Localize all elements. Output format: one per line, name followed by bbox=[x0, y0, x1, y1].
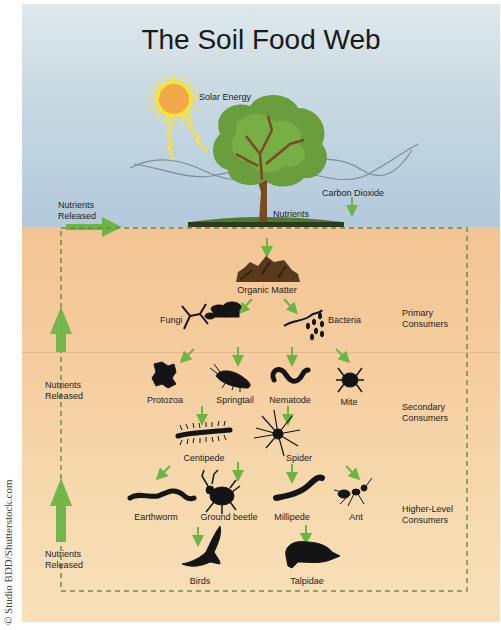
node-label-protozoa: Protozoa bbox=[147, 395, 183, 406]
level-label-secondary: Secondary Consumers bbox=[402, 402, 448, 424]
copyright-notice: © Studio BDD/Shutterstock.com bbox=[2, 479, 14, 625]
ground-beetle-icon bbox=[202, 470, 240, 514]
carbon-dioxide-label: Carbon Dioxide bbox=[322, 188, 384, 199]
birds-icon bbox=[182, 526, 221, 566]
node-label-talpidae: Talpidae bbox=[290, 576, 324, 587]
nutrients-up-arrow-lower bbox=[50, 478, 72, 542]
centipede-icon bbox=[178, 421, 230, 445]
node-label-fungi: Fungi bbox=[160, 315, 183, 326]
level-label-higher: Higher-Level Consumers bbox=[402, 504, 453, 526]
spider-icon bbox=[254, 410, 300, 456]
mite-icon bbox=[336, 368, 364, 392]
node-label-birds: Birds bbox=[190, 576, 211, 587]
sun-icon bbox=[148, 73, 206, 160]
node-label-nematode: Nematode bbox=[269, 395, 311, 406]
millipede-icon bbox=[276, 477, 322, 498]
organic-matter-icon bbox=[236, 256, 300, 282]
node-label-ground-beetle: Ground beetle bbox=[200, 512, 257, 523]
node-label-mite: Mite bbox=[340, 397, 357, 408]
level-label-primary: Primary Consumers bbox=[402, 308, 448, 330]
node-label-bacteria: Bacteria bbox=[328, 315, 361, 326]
springtail-icon bbox=[210, 364, 250, 392]
node-label-earthworm: Earthworm bbox=[134, 512, 178, 523]
talpidae-icon bbox=[286, 542, 340, 568]
node-label-ant: Ant bbox=[349, 512, 363, 523]
food-web-arrows bbox=[160, 238, 356, 541]
node-label-springtail: Springtail bbox=[216, 395, 254, 406]
solar-energy-label: Solar Energy bbox=[199, 92, 251, 103]
node-label-spider: Spider bbox=[286, 453, 312, 464]
ant-icon bbox=[334, 478, 372, 506]
nutrients-released-bottom-label: Nutrients Released bbox=[45, 549, 83, 571]
nutrients-released-top-label: Nutrients Released bbox=[58, 200, 96, 222]
diagram-frame: The Soil Food Web bbox=[22, 4, 500, 622]
nematode-icon bbox=[273, 370, 308, 382]
bacteria-icon bbox=[284, 310, 324, 340]
fungi-icon bbox=[182, 302, 241, 329]
nutrients-released-middle-label: Nutrients Released bbox=[45, 380, 83, 402]
protozoa-icon bbox=[152, 362, 176, 388]
node-label-organic-matter: Organic Matter bbox=[237, 285, 297, 296]
node-label-millipede: Millipede bbox=[274, 512, 310, 523]
nutrients-up-arrow-upper bbox=[50, 307, 72, 352]
node-label-centipede: Centipede bbox=[183, 453, 224, 464]
tree-icon bbox=[188, 95, 344, 227]
nutrients-label: Nutrients bbox=[273, 209, 309, 220]
earthworm-icon bbox=[130, 491, 194, 499]
